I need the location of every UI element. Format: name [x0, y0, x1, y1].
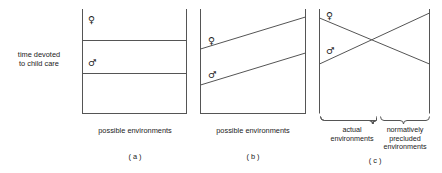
- panel-a-female-symbol: ♀: [88, 15, 95, 25]
- panel-b-female-line: [201, 17, 306, 49]
- panel-c-male-symbol: ♂: [326, 46, 335, 56]
- panel-c-male-line: [320, 13, 430, 64]
- panel-c-female-line: [320, 18, 430, 64]
- panel-c-female-symbol: ♀: [326, 11, 333, 21]
- panel-a-letter: ( a ): [82, 152, 188, 161]
- panel-a-male-symbol: ♂: [88, 58, 97, 68]
- brace-right-half-b: [404, 117, 430, 125]
- panel-b-letter: ( b ): [200, 152, 306, 161]
- panel-a-x-axis-label: possible environments: [82, 126, 188, 135]
- brace-right-label: normatively precluded environments: [376, 126, 434, 152]
- panel-b-male-symbol: ♂: [208, 70, 217, 80]
- panel-b-x-axis-label: possible environments: [200, 126, 306, 135]
- panel-c-letter: ( c ): [322, 156, 428, 165]
- brace-left-label: actual environments: [328, 126, 376, 143]
- brace-right-half-a: [381, 117, 404, 125]
- figure-container: time devoted to child care ♀ ♂ ♀ ♂ ♀ ♂ p…: [0, 0, 442, 173]
- brace-left-half-a: [321, 117, 374, 125]
- panel-b-female-symbol: ♀: [208, 36, 215, 46]
- y-axis-label: time devoted to child care: [4, 50, 74, 68]
